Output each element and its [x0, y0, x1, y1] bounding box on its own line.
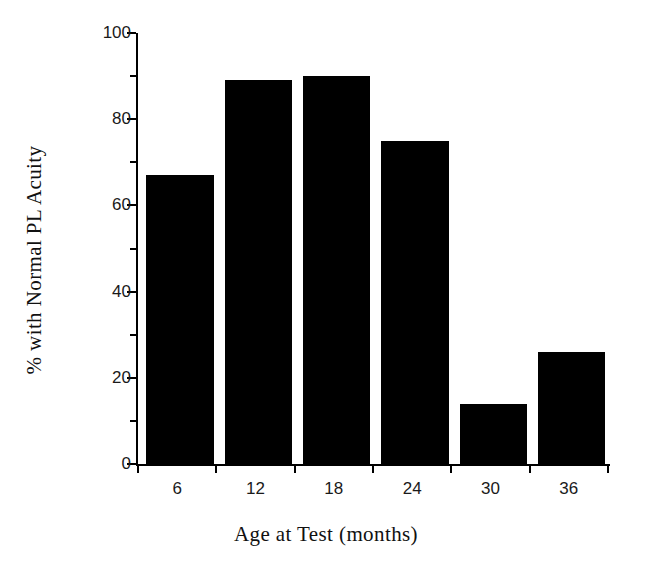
- bars-layer: [138, 33, 608, 464]
- bar-6-months: [146, 175, 213, 464]
- y-tick-minor: [130, 75, 136, 77]
- plot-area: 020406080100 61218243036: [138, 33, 608, 464]
- bar-12-months: [225, 80, 292, 464]
- x-tick-label: 6: [172, 479, 181, 499]
- bar-30-months: [460, 404, 527, 464]
- y-tick-minor: [130, 248, 136, 250]
- bar-chart-figure: % with Normal PL Acuity 020406080100 612…: [0, 0, 652, 571]
- bar-24-months: [381, 141, 448, 464]
- x-tick: [137, 464, 139, 473]
- y-tick-label: 40: [112, 282, 131, 302]
- bar-36-months: [538, 352, 605, 464]
- x-tick: [529, 464, 531, 473]
- bar-18-months: [303, 76, 370, 464]
- y-tick-label: 60: [112, 195, 131, 215]
- y-tick-label: 20: [112, 368, 131, 388]
- y-tick-label: 0: [122, 454, 131, 474]
- x-tick: [607, 464, 609, 473]
- y-axis-title: % with Normal PL Acuity: [22, 50, 47, 470]
- y-tick-minor: [130, 420, 136, 422]
- x-tick: [450, 464, 452, 473]
- x-tick: [294, 464, 296, 473]
- y-tick-minor: [130, 334, 136, 336]
- x-tick: [372, 464, 374, 473]
- x-tick-label: 36: [559, 479, 578, 499]
- y-tick-label: 100: [103, 23, 131, 43]
- x-tick-label: 18: [324, 479, 343, 499]
- x-tick-label: 30: [481, 479, 500, 499]
- x-tick-label: 24: [403, 479, 422, 499]
- x-tick-label: 12: [246, 479, 265, 499]
- x-axis-title: Age at Test (months): [0, 522, 652, 547]
- x-tick: [215, 464, 217, 473]
- y-tick-minor: [130, 161, 136, 163]
- y-tick-label: 80: [112, 109, 131, 129]
